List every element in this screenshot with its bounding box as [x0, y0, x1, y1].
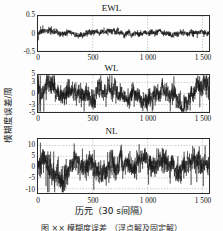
y-tick-label: -10: [25, 186, 35, 194]
x-tick-label: 500: [87, 114, 98, 123]
x-tick-label: 1 500: [195, 53, 212, 62]
x-tick-label: 500: [87, 53, 98, 62]
y-tick-label: 5: [31, 152, 35, 160]
plot-canvas-nl: [38, 139, 209, 193]
x-ticks-wl: 0 500 1 000 1 500: [37, 114, 210, 124]
y-tick-label: 3: [31, 78, 35, 86]
plot-area-wl: [37, 74, 210, 113]
plot-area-nl: [37, 138, 210, 194]
y-tick-label: -5: [29, 174, 35, 182]
y-ticks-wl: 5 3 0 -3 -5: [0, 74, 35, 113]
plot-canvas-ewl: [38, 16, 209, 51]
y-tick-label: -3: [29, 101, 35, 109]
y-tick-label: 5: [31, 70, 35, 78]
y-tick-label: 10: [28, 141, 35, 149]
x-axis-label: 历元（30 s间隔）: [0, 204, 223, 217]
x-tick-label: 1 000: [140, 114, 157, 123]
y-ticks-nl: 10 5 0 -5 -10: [0, 138, 35, 194]
subplot-wl: WL 5 3 0 -3 -5 0 500 1 000 1 500: [0, 62, 223, 125]
y-tick-label: 0: [31, 163, 35, 171]
plot-canvas-wl: [38, 75, 209, 112]
subplot-ewl: EWL 0.5 0 -0.5 0 500 1 000 1 500: [0, 0, 223, 62]
y-tick-label: 0: [31, 30, 35, 38]
subplot-title-nl: NL: [0, 126, 223, 136]
x-tick-label: 1 000: [140, 53, 157, 62]
y-tick-label: 0: [31, 90, 35, 98]
ambiguity-error-figure: 模糊度误差/周 EWL 0.5 0 -0.5 0 500 1 000 1 500…: [0, 0, 223, 231]
subplot-nl: NL 10 5 0 -5 -10 0 500 1 000 1 500 历元（30…: [0, 125, 223, 215]
y-tick-label: -5: [29, 109, 35, 117]
plot-area-ewl: [37, 15, 210, 52]
y-tick-label: -0.5: [24, 48, 35, 56]
y-tick-label: 0.5: [26, 11, 35, 19]
figure-caption: 图 ×× 模糊度误差 （浮点解及固定解）: [0, 222, 223, 231]
y-ticks-ewl: 0.5 0 -0.5: [0, 15, 35, 52]
x-tick-label: 0: [36, 114, 40, 123]
x-tick-label: 0: [36, 53, 40, 62]
x-tick-label: 1 500: [195, 114, 212, 123]
